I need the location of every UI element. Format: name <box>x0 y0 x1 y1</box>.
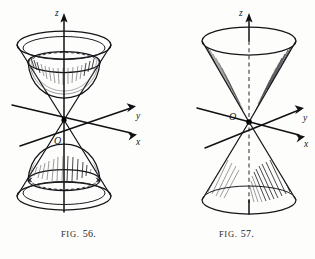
z-axis-57: z <box>238 8 253 214</box>
y-axis-line-56 <box>20 108 131 146</box>
figure-57-drawing: z y x O <box>158 0 315 225</box>
figure-57-block: z y x O <box>158 0 315 259</box>
x-axis-label-56: x <box>135 137 141 147</box>
figure-57-caption-prefix: Fig. <box>219 229 238 239</box>
upper-cone-right-edge-56 <box>64 45 111 120</box>
lower-cone-left-edge-56 <box>17 120 64 196</box>
z-axis-label-57: z <box>238 8 243 18</box>
origin-label-57: O <box>229 111 236 122</box>
y-axis-56: y <box>20 103 141 146</box>
y-axis-arrowhead-56 <box>127 103 136 112</box>
figure-56-caption: Fig. 56. <box>0 228 157 239</box>
figure-56-caption-prefix: Fig. <box>61 229 80 239</box>
figure-57-caption-number: 57. <box>241 228 254 239</box>
upper-cone-left-edge-56 <box>17 45 64 120</box>
y-axis-label-56: y <box>135 111 141 121</box>
figure-57-caption: Fig. 57. <box>158 228 315 239</box>
lower-cone-right-edge-56 <box>64 120 111 196</box>
figure-56-drawing: z y x O <box>0 0 157 225</box>
x-axis-label-57: x <box>303 139 309 149</box>
y-axis-label-57: y <box>302 113 308 123</box>
y-axis-57: y <box>205 105 308 148</box>
figure-page: z y x O <box>0 0 315 259</box>
figure-56-caption-number: 56. <box>83 228 96 239</box>
z-axis-label-56: z <box>54 8 59 18</box>
figure-56-block: z y x O <box>0 0 157 259</box>
